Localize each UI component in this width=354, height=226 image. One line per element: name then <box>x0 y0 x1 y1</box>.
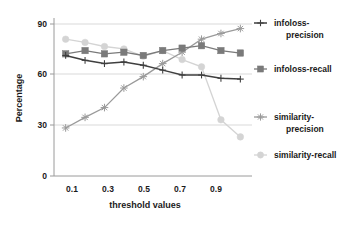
y-axis-title: Percentage <box>14 74 24 123</box>
x-tick-label-4: 0.9 <box>210 184 222 194</box>
y-tick-label-60: 60 <box>38 69 48 79</box>
line-chart: 90 60 30 0 0.1 0.3 0.5 0.7 0.9 threshold… <box>0 0 354 226</box>
x-tick-label-1: 0.3 <box>102 184 114 194</box>
legend-item-similarity-precision[interactable]: similarity-precision <box>254 112 324 134</box>
series-layer <box>62 25 244 140</box>
y-tick-label-0: 0 <box>42 171 47 181</box>
legend-label-similarity-recall: similarity-recall <box>274 150 336 160</box>
y-tick-label-30: 30 <box>38 120 48 130</box>
x-tick-label-3: 0.7 <box>174 184 186 194</box>
y-tick-marks <box>50 24 54 176</box>
y-tick-label-90: 90 <box>38 19 48 29</box>
chart-container: 90 60 30 0 0.1 0.3 0.5 0.7 0.9 threshold… <box>0 0 354 226</box>
legend-marker-infoloss-precision <box>257 20 263 26</box>
legend-marker-similarity-precision <box>257 113 264 120</box>
legend-label-similarity-precision-line2: precision <box>286 124 324 134</box>
x-tick-label-0: 0.1 <box>66 184 78 194</box>
legend-marker-infoloss-recall <box>257 66 263 72</box>
chart-legend: infoloss-precisioninfoloss-recallsimilar… <box>254 18 336 160</box>
gridlines <box>54 24 252 125</box>
series-infoloss-precision <box>62 52 244 82</box>
legend-label-similarity-precision: similarity- <box>274 112 314 122</box>
legend-item-similarity-recall[interactable]: similarity-recall <box>254 150 336 160</box>
legend-label-infoloss-precision-line2: precision <box>286 30 324 40</box>
x-axis-title: threshold values <box>109 200 181 210</box>
series-infoloss-recall <box>62 42 243 58</box>
legend-item-infoloss-precision[interactable]: infoloss-precision <box>254 18 324 40</box>
legend-label-infoloss-recall: infoloss-recall <box>274 64 332 74</box>
x-tick-label-2: 0.5 <box>138 184 150 194</box>
legend-marker-similarity-recall <box>257 152 263 158</box>
legend-item-infoloss-recall[interactable]: infoloss-recall <box>254 64 332 74</box>
legend-label-infoloss-precision: infoloss- <box>274 18 310 28</box>
